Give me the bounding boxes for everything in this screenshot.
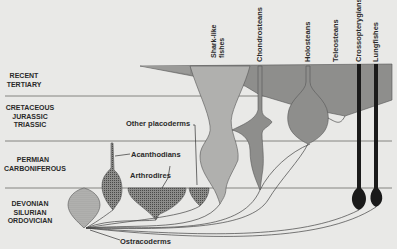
label-other-placoderms: Other placoderms bbox=[126, 119, 190, 128]
label-acanthodians: Acanthodians bbox=[131, 150, 181, 159]
period-label-devonian-silurian-ordovician: DEVONIAN SILURIAN ORDOVICIAN bbox=[4, 200, 56, 226]
acanthodians-shape bbox=[102, 143, 122, 210]
period-label-cretaceous-jurassic-triassic: CRETACEOUS JURASSIC TRIASSIC bbox=[4, 104, 56, 130]
shark-like-shape bbox=[190, 66, 250, 204]
label-crossopterygians: Crossopterygians bbox=[355, 0, 363, 62]
period-label-recent-tertiary: RECENT TERTIARY bbox=[4, 72, 44, 89]
label-teleosteans: Teleosteans bbox=[332, 19, 340, 62]
label-ostracoderms: Ostracoderms bbox=[120, 237, 171, 246]
period-label-permian-carboniferous: PERMIAN CARBONIFEROUS bbox=[4, 156, 62, 173]
other-placoderms-shape bbox=[189, 188, 209, 206]
label-arthrodires: Arthrodires bbox=[130, 171, 171, 180]
label-shark-like-fishes: Shark-like fishes bbox=[210, 6, 226, 58]
label-lungfishes: Lungfishes bbox=[372, 22, 380, 62]
label-holosteans: Holosteans bbox=[304, 22, 312, 62]
label-chondrosteans: Chondrosteans bbox=[256, 7, 264, 62]
arthrodires-shape bbox=[128, 188, 186, 220]
